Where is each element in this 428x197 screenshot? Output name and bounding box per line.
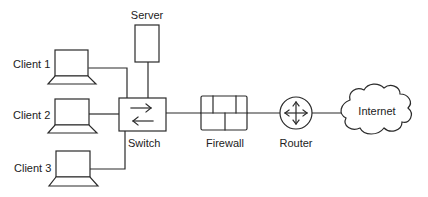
switch-icon [119,98,166,131]
server-icon [135,25,159,62]
server-label: Server [131,9,164,21]
node-client2[interactable]: Client 2 [13,99,97,133]
network-diagram: Client 1 Client 2 Client 3 Server Switch [0,0,428,197]
node-client3[interactable]: Client 3 [14,151,98,186]
edge-client3-switch [90,131,125,169]
node-firewall[interactable]: Firewall [201,96,247,149]
brick-wall-icon [201,96,247,130]
node-client1[interactable]: Client 1 [13,50,96,84]
node-internet[interactable]: Internet [341,84,411,134]
node-server[interactable]: Server [131,9,164,62]
node-switch[interactable]: Switch [119,98,166,149]
laptop-icon [48,50,96,84]
node-router[interactable]: Router [279,97,312,149]
client3-label: Client 3 [14,162,51,174]
firewall-label: Firewall [206,137,244,149]
router-label: Router [279,137,312,149]
laptop-icon [48,99,97,133]
client2-label: Client 2 [13,109,50,121]
client1-label: Client 1 [13,58,50,70]
switch-label: Switch [128,137,160,149]
internet-label: Internet [358,105,395,117]
